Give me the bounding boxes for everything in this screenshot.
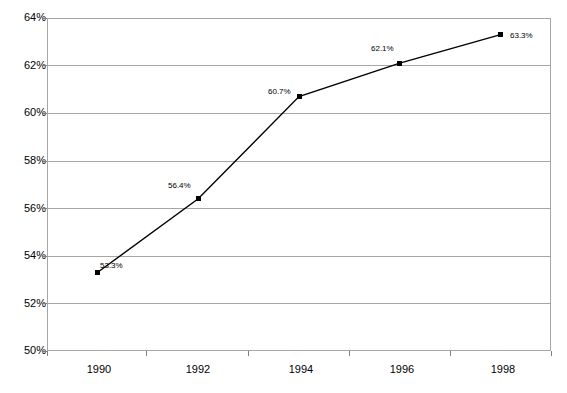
gridline xyxy=(48,303,550,304)
data-point-marker xyxy=(498,32,503,37)
data-point-label: 62.1% xyxy=(371,44,394,53)
data-point-marker xyxy=(95,270,100,275)
plot-area xyxy=(47,18,551,351)
x-axis-tick xyxy=(551,351,552,356)
data-point-marker xyxy=(196,196,201,201)
data-point-label: 53.3% xyxy=(100,261,123,270)
x-axis-tick xyxy=(47,351,48,356)
gridline xyxy=(48,208,550,209)
gridline xyxy=(48,256,550,257)
x-axis-tick-label: 1998 xyxy=(473,364,533,375)
x-axis-tick-label: 1992 xyxy=(168,364,228,375)
data-point-marker xyxy=(397,61,402,66)
x-axis-tick xyxy=(349,351,350,356)
gridline xyxy=(48,113,550,114)
x-axis-tick xyxy=(450,351,451,356)
gridline xyxy=(48,65,550,66)
data-point-label: 56.4% xyxy=(168,181,191,190)
x-axis-tick-label: 1990 xyxy=(69,364,129,375)
x-axis-tick xyxy=(248,351,249,356)
gridline xyxy=(48,161,550,162)
x-axis-tick xyxy=(146,351,147,356)
x-axis-tick-label: 1996 xyxy=(372,364,432,375)
data-point-marker xyxy=(297,94,302,99)
data-point-label: 60.7% xyxy=(268,87,291,96)
line-chart: 64% 62% 60% 58% 56% 54% 52% 50% 1990 199… xyxy=(0,0,567,393)
x-axis-tick-label: 1994 xyxy=(271,364,331,375)
data-point-label: 63.3% xyxy=(510,31,533,40)
